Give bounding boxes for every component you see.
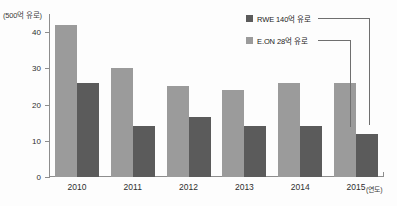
bar-group [161,14,217,177]
y-axis-tick-label: 40 [32,28,41,37]
legend-label-rwe: RWE 140억 유로 [257,13,311,24]
bar-group [49,14,105,177]
x-axis-tick-label: 2014 [272,182,328,192]
bar[interactable] [244,126,266,177]
bar[interactable] [167,86,189,177]
legend-swatch-icon-rwe [246,15,253,22]
bar[interactable] [111,68,133,177]
y-axis-tick-label: 0 [37,173,41,182]
bar-groups [49,14,384,177]
legend-item-rwe[interactable]: RWE 140억 유로 [246,13,311,24]
bar[interactable] [334,83,356,177]
bar-chart: (500억 유로) 010203040 20102011201220132014… [0,0,397,206]
x-axis-tick-label: 2013 [216,182,272,192]
legend-swatch-icon-eon [246,37,253,44]
leader-line-eon-horizontal [318,40,351,41]
x-axis-unit-label: (연도) [366,184,383,194]
bar-group [105,14,161,177]
bar[interactable] [278,83,300,177]
legend: RWE 140억 유로 E.ON 28억 유로 [246,13,311,57]
plot-area: 010203040 [49,14,384,177]
leader-line-eon-vertical [350,40,351,127]
bar-group [328,14,384,177]
leader-line-rwe-vertical [369,18,370,125]
y-axis-tick [45,177,50,178]
leader-line-rwe-horizontal [318,18,370,19]
x-axis-labels: 201020112012201320142015 [49,182,384,192]
bar[interactable] [222,90,244,177]
bar[interactable] [189,117,211,177]
bar[interactable] [55,25,77,177]
bar[interactable] [356,134,378,177]
x-axis-tick-label: 2012 [161,182,217,192]
bar[interactable] [77,83,99,177]
legend-label-eon: E.ON 28억 유로 [257,35,308,46]
legend-item-eon[interactable]: E.ON 28억 유로 [246,35,311,46]
y-axis-unit-label: (500억 유로) [3,9,42,20]
bar[interactable] [300,126,322,177]
y-axis-tick-label: 20 [32,100,41,109]
bar[interactable] [133,126,155,177]
y-axis-tick-label: 10 [32,136,41,145]
x-axis-tick-label: 2011 [105,182,161,192]
y-axis-tick-label: 30 [32,64,41,73]
x-axis-tick-label: 2010 [49,182,105,192]
